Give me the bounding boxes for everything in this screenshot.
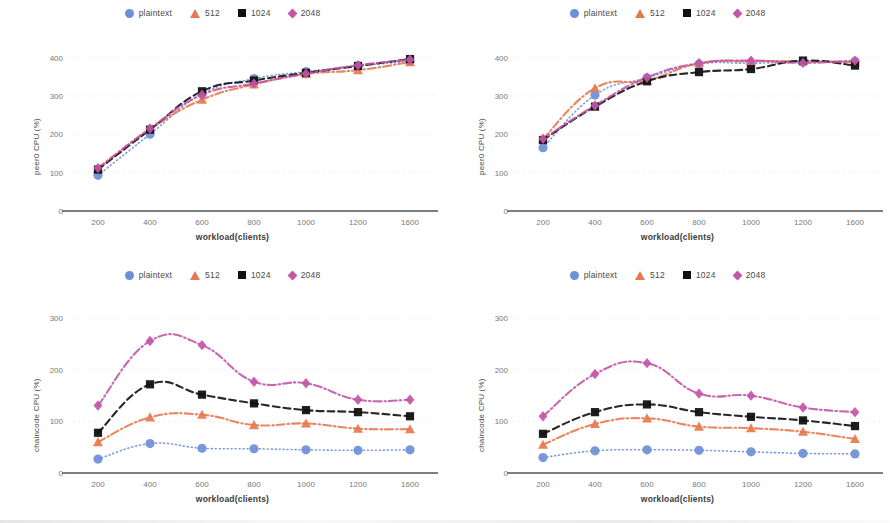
svg-text:200: 200 bbox=[495, 130, 509, 139]
svg-text:1000: 1000 bbox=[742, 218, 760, 227]
svg-text:300: 300 bbox=[50, 92, 64, 101]
svg-text:1200: 1200 bbox=[794, 480, 812, 489]
svg-text:200: 200 bbox=[495, 366, 509, 375]
svg-text:1200: 1200 bbox=[794, 218, 812, 227]
svg-text:100: 100 bbox=[495, 169, 509, 178]
x-axis-label: workload(clients) bbox=[455, 232, 890, 242]
svg-text:1200: 1200 bbox=[349, 480, 367, 489]
svg-text:600: 600 bbox=[640, 218, 654, 227]
plot-area-top-left: 0100200300400200400600800100012001600 bbox=[0, 0, 445, 261]
x-axis-label: workload(clients) bbox=[455, 494, 890, 504]
svg-text:1200: 1200 bbox=[349, 218, 367, 227]
svg-text:300: 300 bbox=[495, 92, 509, 101]
svg-text:1600: 1600 bbox=[401, 218, 419, 227]
svg-text:400: 400 bbox=[50, 54, 64, 63]
svg-text:100: 100 bbox=[50, 169, 64, 178]
svg-text:300: 300 bbox=[50, 314, 64, 323]
svg-text:400: 400 bbox=[588, 218, 602, 227]
chart-panel-bottom-right: plaintext 512 1024 2048 chaincode CPU (%… bbox=[445, 262, 890, 523]
svg-text:1600: 1600 bbox=[401, 480, 419, 489]
svg-text:400: 400 bbox=[143, 480, 157, 489]
svg-text:1000: 1000 bbox=[742, 480, 760, 489]
plot-svg: 0100200300200400600800100012001600 bbox=[0, 262, 445, 523]
svg-text:800: 800 bbox=[692, 218, 706, 227]
svg-text:400: 400 bbox=[143, 218, 157, 227]
plot-svg: 0100200300400200400600800100012001600 bbox=[445, 0, 890, 261]
svg-text:400: 400 bbox=[588, 480, 602, 489]
svg-text:800: 800 bbox=[247, 218, 261, 227]
svg-text:200: 200 bbox=[536, 218, 550, 227]
svg-text:200: 200 bbox=[91, 218, 105, 227]
svg-text:200: 200 bbox=[91, 480, 105, 489]
svg-text:200: 200 bbox=[50, 366, 64, 375]
svg-text:600: 600 bbox=[640, 480, 654, 489]
svg-text:1600: 1600 bbox=[846, 480, 864, 489]
plot-area-bottom-left: 0100200300200400600800100012001600 bbox=[0, 262, 445, 523]
svg-text:1000: 1000 bbox=[297, 218, 315, 227]
x-axis-label: workload(clients) bbox=[10, 232, 455, 242]
chart-panel-bottom-left: plaintext 512 1024 2048 chaincode CPU (%… bbox=[0, 262, 445, 523]
chart-panel-top-right: plaintext 512 1024 2048 peer0 CPU (%) 01… bbox=[445, 0, 890, 261]
plot-svg: 0100200300200400600800100012001600 bbox=[445, 262, 890, 523]
svg-text:800: 800 bbox=[692, 480, 706, 489]
svg-text:200: 200 bbox=[50, 130, 64, 139]
svg-text:600: 600 bbox=[195, 218, 209, 227]
svg-text:1000: 1000 bbox=[297, 480, 315, 489]
svg-text:400: 400 bbox=[495, 54, 509, 63]
svg-text:100: 100 bbox=[495, 417, 509, 426]
svg-text:100: 100 bbox=[50, 417, 64, 426]
figure-grid: plaintext 512 1024 2048 peer0 CPU (%) 01… bbox=[0, 0, 890, 523]
plot-area-bottom-right: 0100200300200400600800100012001600 bbox=[445, 262, 890, 523]
chart-panel-top-left: plaintext 512 1024 2048 peer0 CPU (%) 01… bbox=[0, 0, 445, 261]
plot-area-top-right: 0100200300400200400600800100012001600 bbox=[445, 0, 890, 261]
svg-text:800: 800 bbox=[247, 480, 261, 489]
svg-text:300: 300 bbox=[495, 314, 509, 323]
svg-text:600: 600 bbox=[195, 480, 209, 489]
svg-text:200: 200 bbox=[536, 480, 550, 489]
plot-svg: 0100200300400200400600800100012001600 bbox=[0, 0, 445, 261]
x-axis-label: workload(clients) bbox=[10, 494, 455, 504]
svg-text:1600: 1600 bbox=[846, 218, 864, 227]
